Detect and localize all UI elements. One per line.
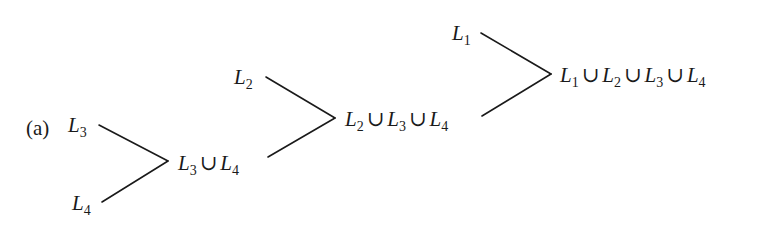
- node-L3-union-L4: L3∪L4: [178, 153, 239, 178]
- panel-label: (a): [26, 118, 49, 139]
- edge-L3-to-L3uL4: [99, 125, 168, 161]
- edge-L2uL3uL4-to-L1uL2uL3uL4: [482, 74, 551, 116]
- union-tree-diagram: (a) L3 L4 L3∪L4 L2 L2∪L3∪L4 L1 L1∪L2∪L3∪…: [0, 0, 757, 235]
- node-L3: L3: [68, 115, 87, 140]
- edge-L2-to-L2uL3uL4: [266, 77, 335, 118]
- edge-L1-to-L1uL2uL3uL4: [481, 33, 551, 74]
- node-L1: L1: [452, 23, 471, 48]
- node-L4: L4: [72, 193, 91, 218]
- node-L1-union-L2-union-L3-union-L4: L1∪L2∪L3∪L4: [560, 65, 706, 90]
- edge-L3uL4-to-L2uL3uL4: [268, 118, 335, 157]
- node-L2: L2: [234, 67, 253, 92]
- node-L2-union-L3-union-L4: L2∪L3∪L4: [345, 109, 448, 134]
- edge-L4-to-L3uL4: [102, 161, 168, 202]
